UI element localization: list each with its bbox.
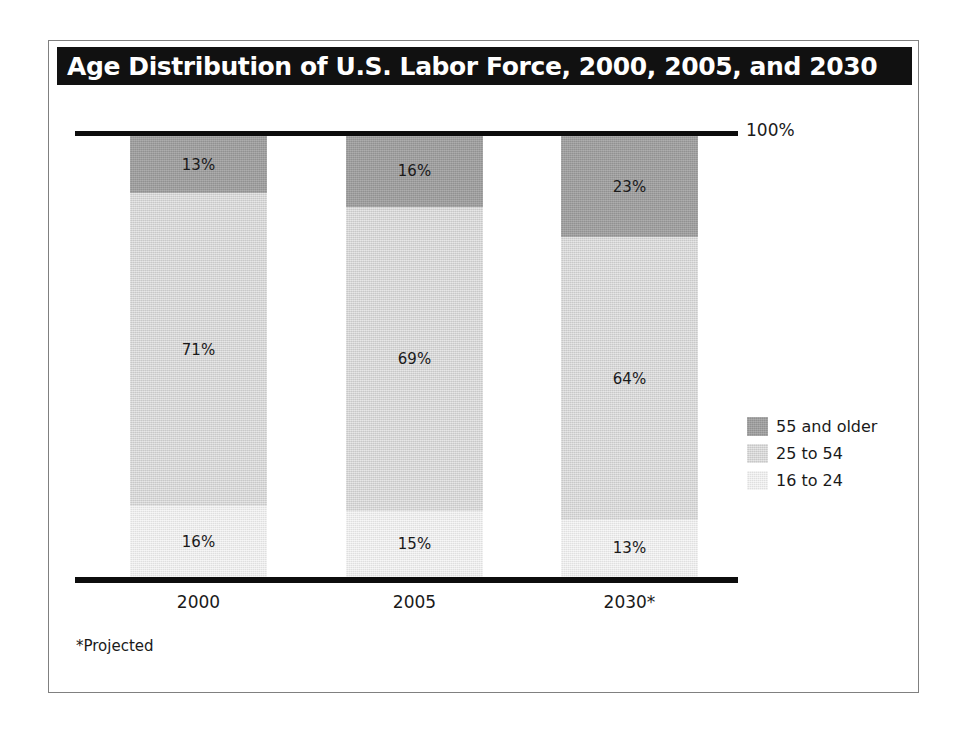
footnote-projected: *Projected bbox=[76, 637, 154, 655]
bar-segment-label: 69% bbox=[398, 350, 431, 368]
bar-segment-55-and-older[interactable]: 13% bbox=[130, 136, 267, 193]
bar-segment-25-to-54[interactable]: 64% bbox=[561, 237, 698, 519]
legend-item-16-to-24[interactable]: 16 to 24 bbox=[747, 470, 877, 490]
stacked-bar-2030[interactable]: 23% 64% 13% bbox=[561, 136, 698, 577]
bar-segment-55-and-older[interactable]: 16% bbox=[346, 136, 483, 207]
x-tick-label-2000: 2000 bbox=[130, 592, 267, 612]
stacked-bar-2000[interactable]: 13% 71% 16% bbox=[130, 136, 267, 577]
bar-segment-55-and-older[interactable]: 23% bbox=[561, 136, 698, 237]
bar-segment-label: 23% bbox=[613, 178, 646, 196]
legend-swatch-icon bbox=[747, 471, 768, 490]
legend-item-55-and-older[interactable]: 55 and older bbox=[747, 416, 877, 436]
bar-segment-label: 16% bbox=[398, 162, 431, 180]
bar-segment-label: 64% bbox=[613, 370, 646, 388]
chart-plot-area: 100% 13% 71% 16% 16% 69% 15% bbox=[49, 41, 920, 694]
bar-segment-label: 13% bbox=[613, 539, 646, 557]
x-tick-label-2030: 2030* bbox=[561, 592, 698, 612]
chart-legend: 55 and older 25 to 54 16 to 24 bbox=[747, 416, 877, 490]
x-tick-label-2005: 2005 bbox=[346, 592, 483, 612]
figure-frame: Age Distribution of U.S. Labor Force, 20… bbox=[48, 40, 919, 693]
bar-segment-label: 16% bbox=[182, 533, 215, 551]
bar-segment-label: 15% bbox=[398, 535, 431, 553]
bar-segment-25-to-54[interactable]: 71% bbox=[130, 193, 267, 506]
bar-segment-label: 71% bbox=[182, 341, 215, 359]
axis-label-100-percent: 100% bbox=[746, 120, 795, 140]
bar-segment-16-to-24[interactable]: 13% bbox=[561, 520, 698, 577]
stacked-bar-2005[interactable]: 16% 69% 15% bbox=[346, 136, 483, 577]
x-axis-baseline bbox=[75, 577, 738, 583]
legend-item-label: 16 to 24 bbox=[776, 471, 843, 490]
bar-segment-25-to-54[interactable]: 69% bbox=[346, 207, 483, 511]
legend-item-label: 55 and older bbox=[776, 417, 877, 436]
legend-item-label: 25 to 54 bbox=[776, 444, 843, 463]
bar-segment-16-to-24[interactable]: 16% bbox=[130, 506, 267, 577]
bar-segment-16-to-24[interactable]: 15% bbox=[346, 511, 483, 577]
legend-item-25-to-54[interactable]: 25 to 54 bbox=[747, 443, 877, 463]
legend-swatch-icon bbox=[747, 444, 768, 463]
legend-swatch-icon bbox=[747, 417, 768, 436]
bar-segment-label: 13% bbox=[182, 156, 215, 174]
